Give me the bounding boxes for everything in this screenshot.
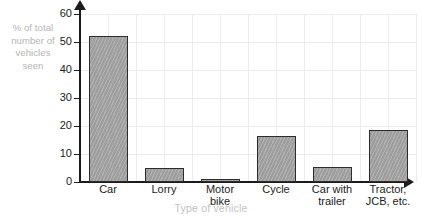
y-tick-mark <box>74 182 80 183</box>
x-tick-label: Car <box>80 184 136 196</box>
y-tick-label: 0 <box>16 175 72 187</box>
y-tick-label: 20 <box>16 119 72 131</box>
y-tick-label: 40 <box>16 63 72 75</box>
y-tick-label: 30 <box>16 91 72 103</box>
y-tick-label: 60 <box>16 7 72 19</box>
y-axis-ticks: 0102030405060 <box>0 0 72 217</box>
bar <box>313 167 352 182</box>
bar-series <box>80 14 416 182</box>
bar-chart-figure: % of total number of vehicles seen 01020… <box>0 0 422 217</box>
bar <box>369 130 408 182</box>
y-axis-arrow-icon <box>74 0 86 10</box>
y-tick-label: 10 <box>16 147 72 159</box>
gridline-vertical <box>416 14 417 182</box>
bar <box>145 168 184 182</box>
y-tick-label: 50 <box>16 35 72 47</box>
x-axis-title: Type of vehicle <box>0 202 422 214</box>
bar <box>89 36 128 182</box>
bar <box>201 179 240 182</box>
x-tick-label: Cycle <box>248 184 304 196</box>
bar <box>257 136 296 182</box>
x-tick-label: Lorry <box>136 184 192 196</box>
